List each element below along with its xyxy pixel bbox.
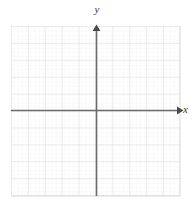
x-axis-label: x (183, 104, 195, 115)
coordinate-plane-figure: y x (0, 0, 195, 206)
y-axis-label: y (91, 4, 103, 15)
coordinate-grid-svg (0, 0, 195, 206)
